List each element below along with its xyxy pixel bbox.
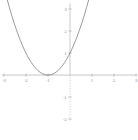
x-tick-label: -1 — [46, 78, 50, 83]
parabola-curve — [7, 0, 88, 75]
x-tick-label: 3 — [135, 78, 138, 83]
function-plot-figure: -3-2-1123-2-1123 — [0, 0, 138, 140]
y-tick-label: 2 — [64, 29, 67, 34]
y-tick-label: 1 — [64, 51, 67, 56]
parabola-plot-svg: -3-2-1123-2-1123 — [0, 0, 138, 140]
y-tick-label: -1 — [63, 95, 67, 100]
x-tick-label: 2 — [113, 78, 116, 83]
y-tick-label: 3 — [64, 7, 67, 12]
x-tick-label: -3 — [2, 78, 6, 83]
y-tick-label: -2 — [63, 117, 67, 122]
x-tick-label: 1 — [91, 78, 94, 83]
x-tick-label: -2 — [24, 78, 28, 83]
